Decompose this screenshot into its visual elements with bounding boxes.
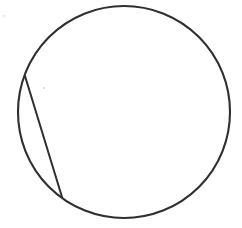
geometry-figure-svg xyxy=(0,0,242,228)
figure-canvas: Circle with a chord cutting a thin segme… xyxy=(0,0,242,228)
stray-speck-mark xyxy=(43,87,45,89)
corner-artifact-mark xyxy=(2,14,5,17)
